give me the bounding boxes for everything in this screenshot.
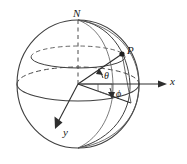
label-polar-angle: θ: [104, 71, 109, 81]
label-x-axis: x: [170, 76, 175, 87]
x-axis-arrowhead-icon: [158, 81, 167, 88]
y-axis-line: [58, 84, 78, 122]
sphere-diagram-svg: [0, 0, 187, 164]
spherical-coordinates-figure: N P x y θ ϕ: [0, 0, 187, 164]
label-y-axis: y: [63, 127, 68, 138]
radius-vector-op: [78, 54, 122, 84]
label-azimuth-angle: ϕ: [116, 89, 121, 99]
point-p-marker: [119, 51, 124, 56]
label-north-pole: N: [73, 8, 80, 19]
y-axis-arrowhead-icon: [55, 117, 63, 130]
label-point-p: P: [127, 45, 134, 56]
